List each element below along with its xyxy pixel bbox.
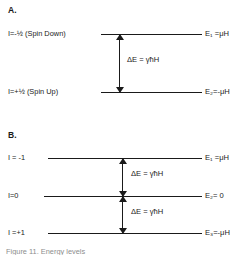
panel-b-level-1-right-label: E₁ =μH [205,151,229,164]
figure-caption-clipped: Figure 11. Energy levels [6,247,236,255]
arrow-head-up-icon [116,34,124,40]
panel-b-transition-2-arrow [117,197,128,233]
panel-a-transition-label: ΔE = γħH [127,55,159,64]
panel-b-transition-1-label: ΔE = γħH [131,169,163,178]
arrow-head-up-icon [119,196,127,202]
panel-b-level-1-left-label: I = -1 [8,151,25,164]
arrow-head-down-icon [116,87,124,93]
panel-b-letter: B. [8,130,17,140]
arrow-head-down-icon [119,228,127,234]
panel-b-transition-2-label: ΔE = γħH [131,207,163,216]
panel-a-transition-arrow [114,35,125,92]
arrow-head-up-icon [119,158,127,164]
panel-a-level-1-left-label: I=-½ (Spin Down) [8,27,66,40]
panel-a-level-2-right-label: E₂=-μH [205,85,230,98]
panel-a-letter: A. [8,5,17,15]
panel-b-level-3-right-label: E₃=-μH [205,226,230,239]
panel-b-transition-1-arrow [117,159,128,196]
arrow-shaft-icon [119,35,120,92]
figure-caption-text: Figure 11. Energy levels [6,247,236,255]
panel-a-level-1-right-label: E₁ =μH [205,27,229,40]
panel-b-level-2-right-label: E₂= 0 [205,189,224,202]
panel-b-level-2-left-label: I=0 [8,189,18,202]
panel-b-level-3-left-label: I =+1 [8,226,25,239]
panel-a-level-2-left-label: I=+½ (Spin Up) [8,85,58,98]
